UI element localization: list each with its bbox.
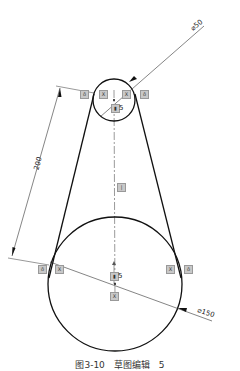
figure-caption: 图3-10 草图编辑 5 xyxy=(0,358,240,371)
tangent-relation-icon[interactable]: ô xyxy=(184,265,193,274)
tangent-line-right[interactable] xyxy=(135,94,181,278)
dim-line-200 xyxy=(12,88,60,256)
fix-count-small: 5 xyxy=(119,104,123,112)
tangent-relation-icon[interactable]: ô xyxy=(38,265,47,274)
coincident-relation-icon[interactable]: X xyxy=(122,90,131,99)
leader-arrow-d50 xyxy=(129,76,137,82)
tangent-relation-icon[interactable]: ô xyxy=(80,90,89,99)
dim-text-d50: ⌀50 xyxy=(189,18,204,33)
coincident-relation-icon[interactable]: X xyxy=(99,90,108,99)
coincident-relation-icon[interactable]: X xyxy=(110,292,119,301)
small-circle-center xyxy=(113,99,115,101)
tangent-line-left[interactable] xyxy=(49,94,94,278)
dim-arrow-bottom xyxy=(12,247,16,256)
leader-arrow-d150 xyxy=(178,308,187,312)
large-circle-center xyxy=(114,283,116,285)
vertical-relation-icon[interactable]: | xyxy=(117,183,126,192)
dim-text-d150: ⌀150 xyxy=(196,306,215,319)
dim-text-200: 200 xyxy=(32,156,43,171)
fix-count-large: 5 xyxy=(118,272,122,280)
tangent-relation-icon[interactable]: ô xyxy=(140,90,149,99)
coincident-relation-icon[interactable]: X xyxy=(55,265,64,274)
dim-extension-bottom xyxy=(8,258,49,265)
coincident-relation-icon[interactable]: X xyxy=(166,265,175,274)
fix-arrow-head xyxy=(112,261,116,265)
